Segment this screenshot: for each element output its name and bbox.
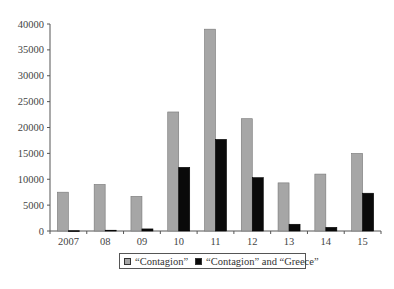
bar-chart: 0500010000150002000025000300003500040000…	[0, 0, 394, 289]
legend-item-contagion: “Contagion”	[124, 256, 188, 267]
bar-contagion	[278, 183, 289, 231]
bar-contagion	[352, 153, 363, 231]
x-tick-label: 14	[321, 236, 332, 247]
y-axis: 0500010000150002000025000300003500040000	[18, 19, 50, 237]
legend-swatch-gray	[124, 258, 131, 265]
bar-contagion	[315, 174, 326, 231]
x-tick-label: 15	[357, 236, 368, 247]
bar-contagion-greece	[216, 139, 227, 231]
x-tick-label: 2007	[58, 236, 79, 247]
legend-label: “Contagion” and “Greece”	[206, 256, 319, 267]
y-tick-label: 35000	[18, 44, 44, 55]
x-axis: 20070809101112131415	[50, 231, 381, 247]
y-tick-label: 15000	[18, 148, 44, 159]
bar-contagion	[205, 29, 216, 231]
y-tick-label: 25000	[18, 96, 44, 107]
bar-contagion	[94, 184, 105, 231]
x-tick-label: 11	[210, 236, 220, 247]
x-tick-label: 13	[284, 236, 295, 247]
bar-contagion-greece	[326, 227, 337, 231]
bar-contagion-greece	[105, 230, 116, 231]
bar-contagion-greece	[179, 167, 190, 231]
x-tick-label: 12	[247, 236, 258, 247]
x-tick-label: 10	[173, 236, 184, 247]
y-tick-label: 0	[39, 226, 44, 237]
y-tick-label: 30000	[18, 70, 44, 81]
bar-contagion-greece	[68, 231, 79, 232]
legend-swatch-black	[195, 258, 202, 265]
bar-contagion-greece	[142, 229, 153, 231]
legend-label: “Contagion”	[135, 256, 188, 267]
bar-contagion	[57, 192, 68, 231]
y-tick-label: 10000	[18, 174, 44, 185]
x-tick-label: 08	[100, 236, 111, 247]
legend-item-contagion-greece: “Contagion” and “Greece”	[195, 256, 319, 267]
bar-contagion	[131, 196, 142, 231]
legend: “Contagion” “Contagion” and “Greece”	[119, 253, 306, 269]
bar-contagion	[168, 112, 179, 231]
y-tick-label: 40000	[18, 19, 44, 30]
bar-contagion-greece	[363, 193, 374, 231]
y-tick-label: 5000	[23, 200, 44, 211]
x-tick-label: 09	[137, 236, 148, 247]
bar-contagion-greece	[289, 224, 300, 231]
bars	[57, 29, 373, 231]
bar-contagion-greece	[252, 178, 263, 231]
y-tick-label: 20000	[18, 122, 44, 133]
bar-contagion	[241, 119, 252, 231]
